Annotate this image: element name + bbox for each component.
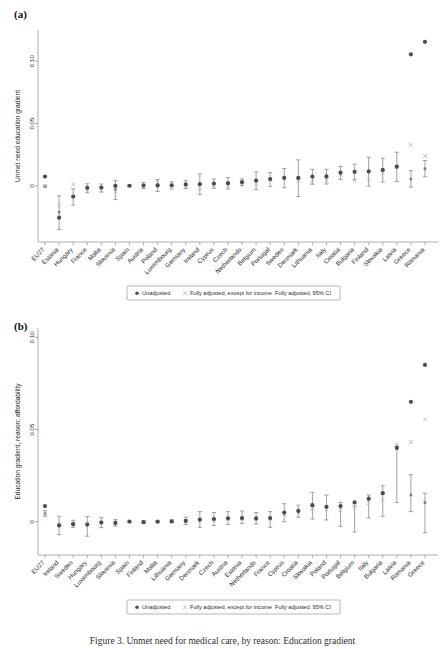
- unadjusted-point: [254, 178, 258, 182]
- chart-legend: UnadjustedFully adjusted, except for inc…: [127, 286, 340, 300]
- partially-adjusted-cross: [71, 182, 75, 186]
- unadjusted-point: [57, 216, 61, 220]
- partially-adjusted-cross: [423, 154, 427, 158]
- unadjusted-point: [170, 519, 174, 523]
- unadjusted-point: [353, 500, 357, 504]
- legend-fully-adjusted-label: Fully adjusted, 95% CI: [275, 290, 331, 296]
- partially-adjusted-cross: [409, 143, 413, 147]
- figure-caption: Figure 3. Unmet need for medical care, b…: [0, 636, 445, 646]
- unadjusted-point: [409, 52, 413, 56]
- unadjusted-point: [226, 516, 230, 520]
- y-tick-label: 0.05: [28, 423, 35, 436]
- y-tick-label: 0: [28, 520, 35, 524]
- unadjusted-point: [156, 519, 160, 523]
- partially-adjusted-cross: [409, 440, 413, 444]
- unadjusted-point: [156, 183, 160, 187]
- y-axis-title: Education gradient, reason: affordabilit…: [14, 383, 22, 500]
- fully-adjusted-point: [58, 211, 61, 214]
- ci-bar: [423, 493, 427, 533]
- unadjusted-point: [127, 184, 131, 188]
- unadjusted-point: [184, 182, 188, 186]
- unadjusted-point: [367, 169, 371, 173]
- unadjusted-point: [113, 521, 117, 525]
- unadjusted-point: [85, 186, 89, 190]
- unadjusted-point: [268, 516, 272, 520]
- unadjusted-point: [395, 446, 399, 450]
- unadjusted-point: [226, 181, 230, 185]
- unadjusted-point: [353, 170, 357, 174]
- legend-unadjusted-label: Unadjusted: [142, 290, 170, 296]
- partially-adjusted-cross: [423, 418, 427, 422]
- unadjusted-point: [198, 182, 202, 186]
- y-tick-label: 0.10: [28, 55, 35, 68]
- y-tick-label: 0.10: [28, 331, 35, 344]
- unadjusted-point: [141, 183, 145, 187]
- legend-unadjusted-icon: [135, 606, 139, 610]
- fully-adjusted-point: [409, 177, 412, 180]
- y-axis-title: Unmet need education gradient: [14, 90, 22, 182]
- unadjusted-point: [141, 520, 145, 524]
- panel-b-plot: 00.050.10Education gradient, reason: aff…: [0, 310, 445, 649]
- chart-legend: UnadjustedFully adjusted, except for inc…: [127, 600, 340, 614]
- x-category-label: France: [69, 245, 88, 264]
- unadjusted-point: [43, 174, 47, 178]
- unadjusted-point: [268, 177, 272, 181]
- unadjusted-point: [296, 176, 300, 180]
- fully-adjusted-point: [423, 167, 426, 170]
- unadjusted-point: [43, 504, 47, 508]
- unadjusted-point: [423, 363, 427, 367]
- unadjusted-point: [324, 505, 328, 509]
- unadjusted-point: [310, 174, 314, 178]
- unadjusted-point: [381, 491, 385, 495]
- unadjusted-point: [212, 517, 216, 521]
- unadjusted-point: [198, 517, 202, 521]
- unadjusted-point: [367, 497, 371, 501]
- fully-adjusted-point: [423, 501, 426, 504]
- unadjusted-point: [395, 164, 399, 168]
- panel-b: (b) 00.050.10Education gradient, reason:…: [0, 310, 445, 649]
- unadjusted-point: [296, 509, 300, 513]
- unadjusted-point: [240, 180, 244, 184]
- unadjusted-point: [71, 194, 75, 198]
- legend-unadjusted-label: Unadjusted: [142, 604, 170, 610]
- unadjusted-point: [381, 168, 385, 172]
- unadjusted-point: [409, 400, 413, 404]
- unadjusted-point: [324, 174, 328, 178]
- legend-partially-adjusted-label: Fully adjusted, except for income: [190, 604, 272, 610]
- unadjusted-point: [212, 181, 216, 185]
- y-tick-label: 0.05: [28, 117, 35, 130]
- ci-bar: [395, 446, 399, 502]
- unadjusted-point: [310, 503, 314, 507]
- unadjusted-point: [254, 516, 258, 520]
- unadjusted-point: [423, 40, 427, 44]
- unadjusted-point: [71, 522, 75, 526]
- unadjusted-point: [127, 519, 131, 523]
- panel-a: (a) 00.050.10Unmet need education gradie…: [0, 0, 445, 310]
- unadjusted-point: [282, 510, 286, 514]
- unadjusted-point: [99, 185, 103, 189]
- fully-adjusted-point: [409, 494, 412, 497]
- ci-bar: [409, 475, 413, 512]
- unadjusted-point: [113, 184, 117, 188]
- unadjusted-point: [338, 504, 342, 508]
- unadjusted-point: [184, 519, 188, 523]
- unadjusted-point: [282, 176, 286, 180]
- panel-a-plot: 00.050.10Unmet need education gradientEU…: [0, 0, 445, 310]
- unadjusted-point: [170, 183, 174, 187]
- legend-partially-adjusted-label: Fully adjusted, except for income: [190, 290, 272, 296]
- unadjusted-point: [85, 522, 89, 526]
- legend-unadjusted-icon: [135, 292, 139, 296]
- unadjusted-point: [99, 520, 103, 524]
- legend-fully-adjusted-label: Fully adjusted, 95% CI: [275, 604, 331, 610]
- unadjusted-point: [338, 171, 342, 175]
- y-tick-label: 0: [28, 184, 35, 188]
- ci-bar: [353, 506, 357, 532]
- unadjusted-point: [57, 523, 61, 527]
- unadjusted-point: [240, 516, 244, 520]
